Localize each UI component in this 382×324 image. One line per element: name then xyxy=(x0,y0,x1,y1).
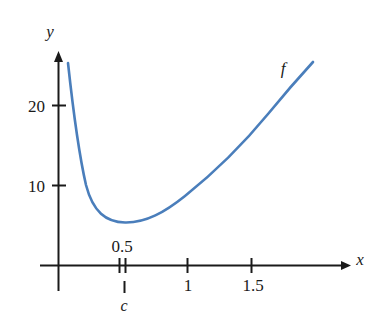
critical-point-label-c: c xyxy=(120,297,127,314)
x-axis-label: x xyxy=(355,250,364,269)
x-tick-label-1-5: 1.5 xyxy=(242,276,263,295)
y-axis-arrowhead xyxy=(54,51,63,62)
y-tick-label-10: 10 xyxy=(28,177,45,196)
y-axis-label: y xyxy=(44,22,54,41)
x-axis-arrowhead xyxy=(341,261,351,270)
figure-canvas: y x f 20 10 0.5 1 1.5 c xyxy=(0,0,382,324)
function-curve-f xyxy=(68,62,313,223)
y-tick-label-20: 20 xyxy=(28,97,45,116)
axes-group xyxy=(40,51,351,291)
function-graph: y x f 20 10 0.5 1 1.5 c xyxy=(0,0,382,324)
x-tick-label-1: 1 xyxy=(184,276,193,295)
curve-label-f: f xyxy=(281,59,288,78)
x-tick-label-0-5: 0.5 xyxy=(111,237,132,256)
curve-group xyxy=(68,62,313,223)
